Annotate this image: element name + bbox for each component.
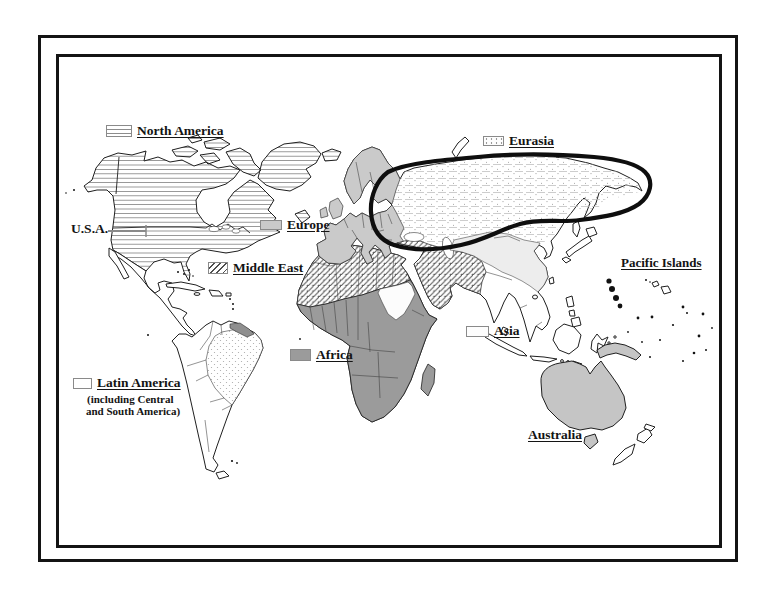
australia-label: Australia <box>528 427 582 443</box>
label-usa: U.S.A. <box>71 221 108 237</box>
swatch-asia-icon <box>466 326 489 337</box>
label-pacific-islands: Pacific Islands <box>621 255 702 271</box>
asia-label: Asia <box>494 323 520 339</box>
swatch-africa-icon <box>290 349 311 361</box>
latin-america-note-line2: and South America) <box>86 405 180 417</box>
label-australia: Australia <box>528 427 582 443</box>
latin-america-label: Latin America <box>97 375 181 391</box>
region-africa <box>297 244 437 422</box>
region-latin-america <box>109 248 301 479</box>
label-asia: Asia <box>466 323 520 339</box>
swatch-europe-icon <box>260 220 282 230</box>
scanned-map-page: { "map": { "regions": { "north_america":… <box>0 0 762 593</box>
label-eurasia: Eurasia <box>483 133 554 149</box>
label-latin-america: Latin America <box>73 375 181 391</box>
swatch-latin-america-icon <box>73 378 92 389</box>
usa-label: U.S.A. <box>71 221 108 237</box>
pacific-islands-label: Pacific Islands <box>621 255 702 271</box>
swatch-middle-east-icon <box>208 262 228 274</box>
label-europe: Europe <box>260 217 330 233</box>
world-map-svg <box>0 0 762 593</box>
africa-label: Africa <box>316 347 353 363</box>
europe-label: Europe <box>287 217 330 233</box>
eurasia-label: Eurasia <box>509 133 554 149</box>
label-north-america: North America <box>106 123 224 139</box>
label-middle-east: Middle East <box>208 260 303 276</box>
region-australia <box>541 343 655 465</box>
swatch-eurasia-icon <box>483 136 504 146</box>
middle-east-label: Middle East <box>233 260 303 276</box>
north-america-label: North America <box>137 123 224 139</box>
label-africa: Africa <box>290 347 353 363</box>
latin-america-note-line1: (including Central <box>87 393 173 405</box>
swatch-north-america-icon <box>106 125 132 137</box>
